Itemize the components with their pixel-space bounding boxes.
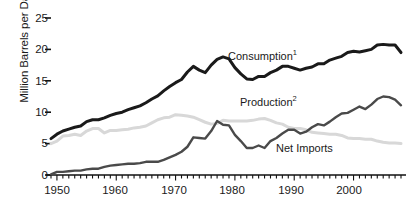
series-label-consumption: Consumption1 bbox=[228, 50, 297, 62]
series-label-consumption-footnote: 1 bbox=[293, 48, 297, 57]
y-tick-label-25: 25 bbox=[24, 12, 48, 24]
y-tick-label-5: 5 bbox=[24, 137, 48, 149]
y-tick-label-20: 20 bbox=[24, 43, 48, 55]
x-tick-label-2000: 2000 bbox=[329, 184, 369, 196]
series-label-production-text: Production bbox=[240, 96, 293, 108]
y-tick-label-10: 10 bbox=[24, 106, 48, 118]
x-tick-label-1950: 1950 bbox=[37, 184, 77, 196]
series-group bbox=[51, 44, 401, 174]
y-tick-label-15: 15 bbox=[24, 75, 48, 87]
series-label-net-imports-text: Net Imports bbox=[276, 142, 333, 154]
x-tick-label-1970: 1970 bbox=[154, 184, 194, 196]
series-label-consumption-text: Consumption bbox=[228, 50, 293, 62]
x-tick-label-1960: 1960 bbox=[95, 184, 135, 196]
series-label-net-imports: Net Imports bbox=[276, 142, 333, 154]
series-label-production: Production2 bbox=[240, 96, 297, 108]
chart-plot-area bbox=[0, 0, 414, 209]
x-tick-label-1990: 1990 bbox=[271, 184, 311, 196]
x-tick-label-1980: 1980 bbox=[212, 184, 252, 196]
axis-group bbox=[45, 18, 406, 181]
chart-figure: Million Barrels per Day 25 20 15 10 5 0 … bbox=[0, 0, 414, 209]
series-line-net-imports bbox=[51, 97, 401, 175]
y-tick-label-0: 0 bbox=[24, 169, 48, 181]
series-label-production-footnote: 2 bbox=[293, 94, 297, 103]
